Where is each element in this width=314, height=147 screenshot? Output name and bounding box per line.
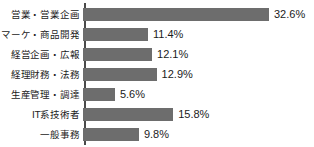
bar bbox=[83, 128, 139, 141]
bar-value-label: 15.8% bbox=[173, 108, 209, 120]
bar-track: 9.8% bbox=[83, 127, 314, 141]
bar-value-label: 32.6% bbox=[269, 8, 305, 20]
bar-track: 15.8% bbox=[83, 107, 314, 121]
table-row: 一般事務 9.8% bbox=[0, 127, 314, 141]
bar-track: 11.4% bbox=[83, 27, 314, 41]
table-row: マーケ・商品開発 11.4% bbox=[0, 27, 314, 41]
bar bbox=[83, 108, 173, 121]
bar bbox=[83, 88, 115, 101]
table-row: 営業・営業企画 32.6% bbox=[0, 7, 314, 21]
bar-value-label: 9.8% bbox=[139, 128, 169, 140]
bar-value-label: 5.6% bbox=[115, 88, 145, 100]
bar-value-label: 12.1% bbox=[152, 48, 188, 60]
bar-value-label: 11.4% bbox=[148, 28, 183, 40]
bar bbox=[83, 8, 269, 21]
table-row: 経営企画・広報 12.1% bbox=[0, 47, 314, 61]
bar-category-label: 生産管理・調達 bbox=[0, 89, 83, 100]
table-row: 経理財務・法務 12.9% bbox=[0, 67, 314, 81]
table-row: IT系技術者 15.8% bbox=[0, 107, 314, 121]
bar-category-label: 経営企画・広報 bbox=[0, 49, 83, 60]
bar-track: 12.9% bbox=[83, 67, 314, 81]
bar-track: 12.1% bbox=[83, 47, 314, 61]
bar-track: 5.6% bbox=[83, 87, 314, 101]
horizontal-bar-chart: 営業・営業企画 32.6% マーケ・商品開発 11.4% 経営企画・広報 12.… bbox=[0, 0, 314, 147]
bar-value-label: 12.9% bbox=[157, 68, 193, 80]
bar-track: 32.6% bbox=[83, 7, 314, 21]
bar bbox=[83, 48, 152, 61]
bar-category-label: マーケ・商品開発 bbox=[0, 29, 83, 40]
bar-category-label: 経理財務・法務 bbox=[0, 69, 83, 80]
bar-rows: 営業・営業企画 32.6% マーケ・商品開発 11.4% 経営企画・広報 12.… bbox=[0, 7, 314, 141]
table-row: 生産管理・調達 5.6% bbox=[0, 87, 314, 101]
bar-category-label: IT系技術者 bbox=[0, 109, 83, 120]
bar-category-label: 一般事務 bbox=[0, 129, 83, 140]
bar bbox=[83, 68, 157, 81]
bar-category-label: 営業・営業企画 bbox=[0, 9, 83, 20]
bar bbox=[83, 28, 148, 41]
